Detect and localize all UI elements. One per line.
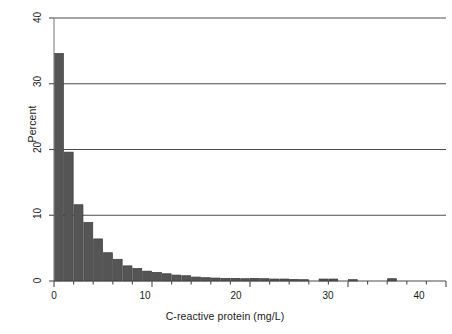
histogram-bar: [192, 277, 201, 281]
histogram-bar: [123, 266, 132, 281]
histogram-bar: [74, 205, 83, 281]
histogram-bar: [54, 54, 63, 281]
histogram-bar: [152, 272, 161, 281]
histogram-bar: [84, 222, 93, 281]
plot-area: [0, 0, 452, 334]
histogram-bar: [64, 152, 73, 281]
tick-marks-group: [49, 18, 446, 287]
bars-group: [54, 54, 396, 281]
histogram-bar: [113, 259, 122, 281]
gridlines: [54, 18, 446, 215]
histogram-bar: [172, 275, 181, 281]
histogram-bar: [182, 276, 191, 281]
histogram-bar: [94, 239, 103, 281]
histogram-bar: [103, 253, 112, 281]
histogram-bar: [143, 271, 152, 281]
histogram-figure: Percent C-reactive protein (mg/L) 0 10 2…: [0, 0, 452, 334]
histogram-bar: [162, 274, 171, 281]
histogram-bar: [133, 269, 142, 281]
